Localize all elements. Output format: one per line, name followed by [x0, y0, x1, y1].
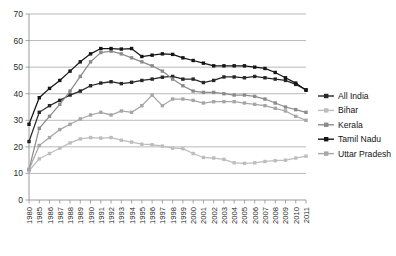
- data-point-kerala: [58, 103, 61, 106]
- x-tick-label: 2008: [271, 207, 280, 224]
- data-point-kerala: [181, 84, 184, 87]
- data-point-tamil-nadu: [150, 53, 153, 56]
- x-tick-label: 1988: [66, 207, 75, 224]
- data-point-tamil-nadu: [202, 61, 205, 64]
- data-point-uttar-pradesh: [38, 144, 41, 147]
- x-tick-label: 1987: [56, 207, 65, 224]
- data-point-all-india: [253, 75, 256, 78]
- legend-marker-all-india: [324, 94, 328, 98]
- data-point-tamil-nadu: [304, 89, 307, 92]
- legend-label-all-india: All India: [338, 91, 369, 101]
- data-point-bihar: [304, 154, 307, 157]
- data-point-all-india: [150, 77, 153, 80]
- data-point-all-india: [263, 76, 266, 79]
- data-point-all-india: [202, 81, 205, 84]
- data-point-all-india: [120, 82, 123, 85]
- data-point-uttar-pradesh: [284, 109, 287, 112]
- data-point-bihar: [38, 157, 41, 160]
- data-point-uttar-pradesh: [253, 103, 256, 106]
- data-point-kerala: [140, 60, 143, 63]
- data-point-all-india: [181, 77, 184, 80]
- data-point-uttar-pradesh: [191, 99, 194, 102]
- data-point-uttar-pradesh: [171, 97, 174, 100]
- data-point-kerala: [130, 56, 133, 59]
- data-point-bihar: [181, 147, 184, 150]
- data-point-kerala: [304, 111, 307, 114]
- data-point-uttar-pradesh: [294, 115, 297, 118]
- x-tick-label: 1993: [117, 207, 126, 224]
- data-point-tamil-nadu: [99, 47, 102, 50]
- data-point-all-india: [38, 111, 41, 114]
- data-point-bihar: [48, 152, 51, 155]
- data-point-bihar: [89, 136, 92, 139]
- data-point-tamil-nadu: [109, 47, 112, 50]
- data-point-all-india: [212, 79, 215, 82]
- data-point-tamil-nadu: [38, 96, 41, 99]
- data-point-tamil-nadu: [171, 53, 174, 56]
- data-point-tamil-nadu: [79, 60, 82, 63]
- series-line-all-india: [29, 76, 306, 141]
- data-point-all-india: [161, 76, 164, 79]
- y-tick-label: 40: [14, 89, 24, 99]
- x-tick-label: 1989: [76, 207, 85, 224]
- y-tick-label: 50: [14, 62, 24, 72]
- data-point-bihar: [191, 152, 194, 155]
- x-tick-label: 2003: [220, 207, 229, 224]
- data-point-bihar: [243, 162, 246, 165]
- data-point-kerala: [202, 91, 205, 94]
- data-point-tamil-nadu: [263, 67, 266, 70]
- data-point-tamil-nadu: [120, 47, 123, 50]
- y-tick-label: 0: [18, 195, 23, 205]
- data-point-bihar: [222, 158, 225, 161]
- x-tick-label: 1994: [128, 207, 137, 224]
- data-point-uttar-pradesh: [232, 100, 235, 103]
- data-point-kerala: [161, 69, 164, 72]
- data-point-bihar: [294, 156, 297, 159]
- data-point-tamil-nadu: [253, 65, 256, 68]
- data-point-uttar-pradesh: [79, 117, 82, 120]
- x-tick-label: 1999: [179, 207, 188, 224]
- data-point-uttar-pradesh: [120, 109, 123, 112]
- x-tick-label: 1980: [25, 207, 34, 224]
- y-tick-label: 30: [14, 115, 24, 125]
- data-point-bihar: [171, 146, 174, 149]
- x-tick-label: 2001: [199, 207, 208, 224]
- data-point-tamil-nadu: [130, 47, 133, 50]
- data-point-all-india: [191, 77, 194, 80]
- x-tick-label: 2010: [292, 207, 301, 224]
- data-point-all-india: [27, 140, 30, 143]
- data-point-uttar-pradesh: [222, 100, 225, 103]
- data-point-all-india: [48, 104, 51, 107]
- x-tick-label: 1985: [35, 207, 44, 224]
- data-point-all-india: [222, 75, 225, 78]
- data-point-all-india: [243, 76, 246, 79]
- data-point-kerala: [284, 105, 287, 108]
- data-point-all-india: [58, 99, 61, 102]
- data-point-kerala: [274, 101, 277, 104]
- data-point-uttar-pradesh: [150, 93, 153, 96]
- legend-marker-bihar: [324, 108, 328, 112]
- x-tick-label: 2004: [230, 207, 239, 224]
- x-tick-label: 2006: [251, 207, 260, 224]
- data-point-tamil-nadu: [27, 123, 30, 126]
- x-tick-label: 2000: [189, 207, 198, 224]
- data-point-kerala: [68, 89, 71, 92]
- data-point-bihar: [212, 156, 215, 159]
- data-point-uttar-pradesh: [58, 128, 61, 131]
- data-point-bihar: [150, 143, 153, 146]
- data-point-kerala: [89, 60, 92, 63]
- data-point-tamil-nadu: [294, 81, 297, 84]
- data-point-bihar: [284, 158, 287, 161]
- x-tick-label: 1996: [148, 207, 157, 224]
- x-tick-label: 1992: [107, 207, 116, 224]
- data-point-uttar-pradesh: [212, 100, 215, 103]
- data-point-bihar: [58, 146, 61, 149]
- data-point-tamil-nadu: [58, 79, 61, 82]
- data-point-kerala: [171, 77, 174, 80]
- data-point-all-india: [274, 77, 277, 80]
- data-point-bihar: [202, 156, 205, 159]
- legend-label-uttar-pradesh: Uttar Pradesh: [338, 149, 391, 159]
- legend-marker-uttar-pradesh: [324, 151, 328, 155]
- data-point-tamil-nadu: [191, 59, 194, 62]
- data-point-uttar-pradesh: [109, 113, 112, 116]
